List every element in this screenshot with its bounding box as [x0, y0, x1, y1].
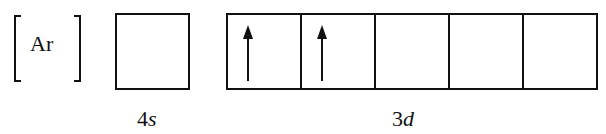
orbital-3d-box-3 [376, 15, 450, 88]
right-bracket [74, 15, 81, 82]
orbital-3d-label: 3d [392, 106, 414, 132]
orbital-3d-box-5 [524, 15, 596, 88]
label-n: 3 [392, 106, 403, 131]
label-l: d [403, 106, 414, 131]
orbital-4s-label: 4s [137, 106, 157, 132]
spin-up-arrow-icon [242, 25, 254, 83]
left-bracket [14, 15, 21, 82]
core-label: Ar [30, 31, 53, 57]
orbital-3d-box-4 [450, 15, 524, 88]
orbital-3d-box-2 [302, 15, 376, 88]
label-l: s [148, 106, 157, 131]
label-n: 4 [137, 106, 148, 131]
orbital-3d-box-1 [228, 15, 302, 88]
orbital-3d-boxes [226, 13, 598, 90]
spin-up-arrow-icon [316, 25, 328, 83]
orbital-4s-box [115, 13, 190, 90]
